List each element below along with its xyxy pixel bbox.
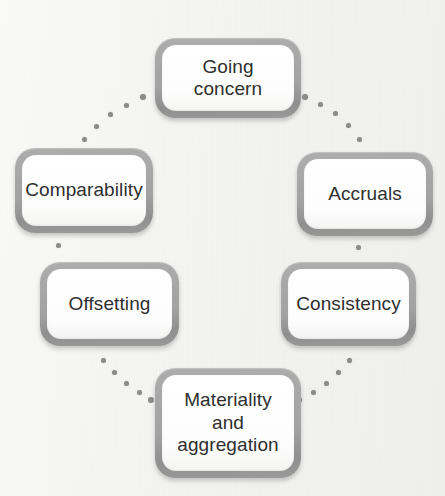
node-comparability-panel: Comparability [22,155,146,226]
connector-dot [56,243,61,248]
node-offsetting[interactable]: Offsetting [40,262,179,346]
concepts-cycle-diagram: Going concern Comparability Accruals Off… [0,0,445,496]
connector-dot [333,111,338,116]
node-accruals[interactable]: Accruals [297,152,433,236]
node-going-concern-panel: Going concern [162,45,294,111]
node-going-concern-label: Going concern [168,56,288,101]
node-accruals-label: Accruals [328,183,402,205]
connector-dot [346,123,351,128]
node-consistency-panel: Consistency [288,269,409,339]
connector-dot [82,137,87,142]
connector-dot [318,102,323,107]
connector-dot [124,381,129,386]
connector-dot [112,370,117,375]
connector-dot [324,381,329,386]
node-going-concern[interactable]: Going concern [155,38,301,118]
connector-dot [140,94,146,100]
connector-dot [124,103,129,108]
node-offsetting-label: Offsetting [69,293,151,315]
connector-dot [108,112,113,117]
connector-dot [336,370,341,375]
node-materiality-label: Materiality and aggregation [177,389,278,456]
connector-dot [347,358,352,363]
node-comparability[interactable]: Comparability [15,148,153,233]
node-consistency[interactable]: Consistency [281,262,416,346]
node-accruals-panel: Accruals [304,159,426,229]
connector-dot [357,137,362,142]
connector-dot [356,245,361,250]
node-materiality-and-aggregation[interactable]: Materiality and aggregation [155,368,301,478]
node-comparability-label: Comparability [25,179,142,201]
connector-dot [137,390,142,395]
node-consistency-label: Consistency [296,293,401,315]
connector-dot [302,94,308,100]
connector-dot [94,124,99,129]
connector-dot [311,390,316,395]
connector-dot [148,397,154,403]
node-materiality-panel: Materiality and aggregation [162,375,294,471]
connector-dot [101,358,106,363]
node-offsetting-panel: Offsetting [47,269,172,339]
